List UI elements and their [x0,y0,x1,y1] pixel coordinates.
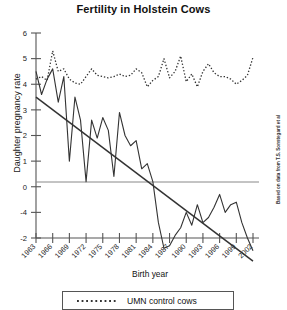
y-axis-ticks: 6543210-4-2 [20,29,41,243]
series-line [36,97,253,261]
plot-area: 6543210-4-2 1963196619691972197519781981… [0,0,287,310]
x-tick-label: 1984 [136,242,154,260]
y-tick-label: 3 [23,106,27,115]
y-tick-label: 5 [23,54,27,63]
chart-legend: UMN control cows [62,291,234,310]
x-tick-label: 1999 [220,242,238,260]
legend-item-label: UMN control cows [127,296,197,306]
x-tick-label: 1963 [19,242,37,260]
data-series [36,51,253,261]
y-tick-label: 6 [23,29,27,38]
series-line [36,69,253,251]
x-tick-label: 1966 [36,242,54,260]
x-axis-title: Birth year [60,269,240,279]
x-tick-label: 1987 [153,242,171,260]
x-tick-label: 1969 [53,242,71,260]
y-tick-label: 1 [23,157,27,166]
y-tick-label: -2 [20,234,27,243]
x-tick-label: 1975 [86,242,104,260]
legend-swatch-dotted-icon [77,300,117,302]
chart-container: Fertility in Holstein Cows Daughter preg… [0,0,287,310]
x-tick-label: 1993 [186,242,204,260]
series-line [36,51,253,87]
y-tick-label: 0 [23,183,27,192]
x-tick-label: 1990 [170,242,188,260]
x-tick-label: 1981 [120,242,138,260]
x-axis-ticks: 1963196619691972197519781981198419871990… [19,233,254,260]
y-tick-label: -4 [20,208,27,217]
y-tick-label: 2 [23,131,27,140]
axes [36,33,259,238]
y-tick-label: 4 [23,80,27,89]
x-tick-label: 1972 [69,242,87,260]
x-tick-label: 1996 [203,242,221,260]
x-tick-label: 1978 [103,242,121,260]
